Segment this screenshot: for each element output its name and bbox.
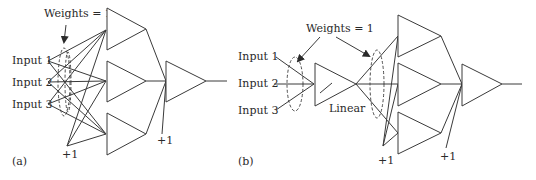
panel-b-hidden-unit-1	[398, 15, 441, 57]
panel-b-label: (b)	[238, 155, 254, 168]
panel-a-label: (a)	[12, 155, 27, 168]
panel-b-output-unit	[462, 64, 502, 106]
panel-a-weights-arrow	[64, 25, 66, 42]
panel-b-input-3-label: Input 3	[238, 104, 278, 117]
panel-b-weights-arrow-2	[336, 37, 369, 56]
panel-a-input-1-label: Input 1	[12, 54, 52, 67]
panel-b-input-2-label: Input 2	[238, 77, 278, 90]
panel-a-hidden-unit-3	[107, 113, 146, 155]
panel-b-hidden-bias-label: +1	[378, 154, 394, 167]
panel-a-hidden-unit-1	[107, 8, 146, 50]
panel-a: Input 1 Input 2 Input 3 Weights = 1 +1	[12, 7, 227, 168]
panel-b-input-1-label: Input 1	[238, 50, 278, 63]
panel-a-hidden-unit-2	[107, 61, 146, 102]
neural-network-diagram: Input 1 Input 2 Input 3 Weights = 1 +1	[0, 0, 536, 180]
panel-a-input-connections	[48, 30, 106, 146]
panel-b: Input 1 Input 2 Input 3 Weights = 1 Line…	[238, 15, 522, 168]
panel-b-hidden-unit-3	[398, 112, 441, 154]
panel-b-linear-unit	[315, 63, 356, 106]
panel-b-output-bias-label: +1	[440, 150, 456, 163]
panel-a-input-3-label: Input 3	[12, 98, 52, 111]
panel-a-output-bias-label: +1	[157, 134, 173, 147]
panel-b-input-connections	[274, 57, 314, 110]
panel-a-hidden-bias-label: +1	[62, 148, 78, 161]
panel-a-output-unit	[166, 61, 206, 102]
panel-b-linear-label: Linear	[329, 102, 366, 115]
panel-a-weights-label: Weights = 1	[44, 7, 112, 20]
panel-b-weights-arrow-1	[298, 37, 320, 61]
panel-a-input-2-label: Input 2	[12, 76, 52, 89]
panel-b-hidden-output-connections	[441, 36, 462, 148]
panel-a-hidden-output-connections	[146, 29, 166, 134]
panel-b-hidden-unit-2	[398, 63, 441, 106]
panel-b-weights-label: Weights = 1	[306, 22, 374, 35]
